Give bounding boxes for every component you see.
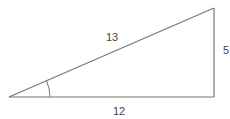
- adjacent-label: 12: [113, 106, 125, 117]
- side-hypotenuse: [9, 8, 214, 97]
- hypotenuse-label: 13: [106, 32, 118, 43]
- angle-arc: [47, 81, 50, 97]
- triangle-diagram: [0, 0, 230, 119]
- opposite-label: 5: [223, 45, 229, 56]
